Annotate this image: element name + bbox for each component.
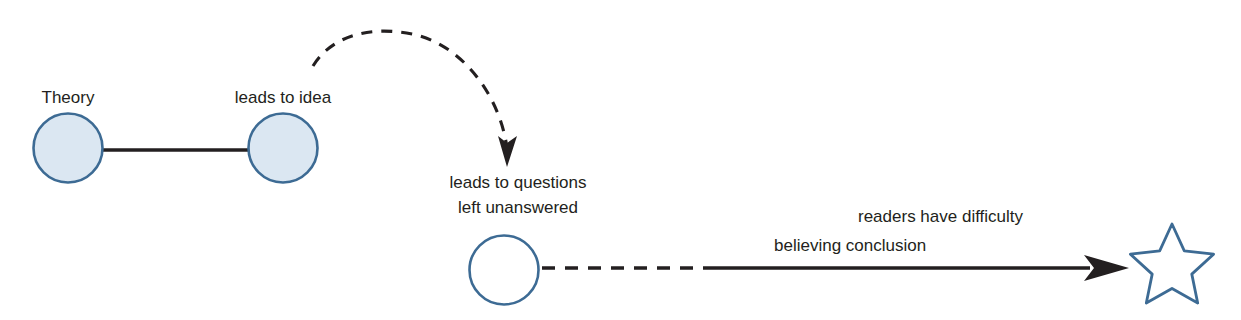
- label-readers-have-difficulty: readers have difficulty: [858, 207, 1024, 226]
- label-leads-to-questions-line1: leads to questions: [449, 173, 586, 192]
- node-theory[interactable]: [34, 114, 103, 183]
- arrowhead-idea-to-questions: [498, 136, 517, 167]
- label-leads-to-questions-line2: left unanswered: [458, 198, 578, 217]
- connector-idea-to-questions-dashed-curve: [313, 31, 507, 148]
- label-theory: Theory: [42, 88, 95, 107]
- node-idea[interactable]: [249, 114, 318, 183]
- arrowhead-questions-to-star: [1084, 255, 1129, 281]
- node-questions[interactable]: [470, 236, 539, 305]
- diagram-canvas: Theory leads to idea leads to questions …: [0, 0, 1241, 320]
- label-leads-to-idea: leads to idea: [235, 88, 332, 107]
- label-believing-conclusion: believing conclusion: [774, 236, 926, 255]
- node-conclusion-star[interactable]: [1130, 224, 1213, 303]
- diagram-svg: Theory leads to idea leads to questions …: [0, 0, 1241, 320]
